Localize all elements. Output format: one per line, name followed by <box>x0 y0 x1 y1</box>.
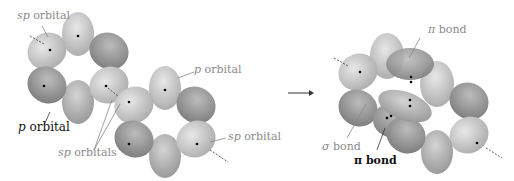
label-sp-orbital-top: sp orbital <box>17 10 70 21</box>
label-pi-bond-bottom: π bond <box>354 155 397 166</box>
reaction-arrow <box>288 90 314 96</box>
label-sp-orbitals: sp orbitals <box>58 147 117 158</box>
label-pi-bond-top: π bond <box>428 24 467 35</box>
label-sigma-bond: σ bond <box>322 141 361 152</box>
label-p-orbital-right: p orbital <box>194 64 241 75</box>
orbital-diagram: sp orbital p orbital p orbital sp orbita… <box>0 0 514 181</box>
label-p-orbital-left: p orbital <box>18 121 70 133</box>
label-sp-orbital-bottom: sp orbital <box>228 131 281 142</box>
